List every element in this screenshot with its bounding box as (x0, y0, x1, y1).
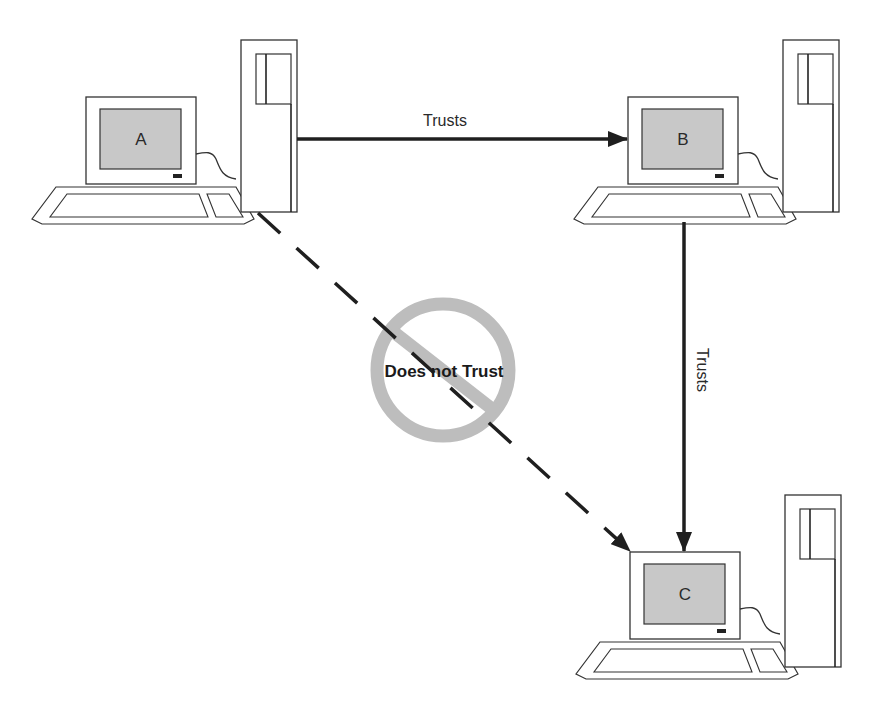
edge-a-to-c: Does not Trust (258, 213, 630, 551)
computer-b: B (574, 40, 839, 224)
node-label-c: C (679, 585, 691, 604)
computer-a: A (32, 40, 297, 224)
edge-a-to-b: Trusts (297, 112, 627, 139)
trust-diagram: A B C Trusts Trusts Does not Trust (0, 0, 881, 706)
edge-b-to-c: Trusts (684, 222, 711, 551)
workstation-icon (576, 495, 841, 679)
workstation-icon (32, 40, 297, 224)
node-label-a: A (135, 130, 147, 149)
computer-c: C (576, 495, 841, 679)
workstation-icon (574, 40, 839, 224)
edge-label-a-c: Does not Trust (384, 362, 503, 381)
edge-label-b-c: Trusts (694, 348, 711, 392)
dashed-arrow-icon (258, 213, 630, 551)
edge-label-a-b: Trusts (423, 112, 467, 129)
node-label-b: B (677, 130, 688, 149)
